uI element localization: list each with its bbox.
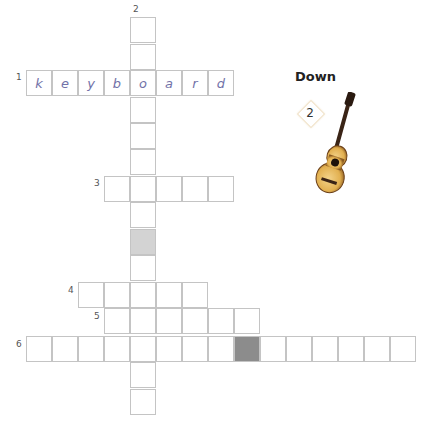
across-1-cell[interactable]: k <box>26 70 52 96</box>
across-3-cell[interactable] <box>104 176 130 202</box>
guitar-icon <box>312 92 362 202</box>
across-6-cell[interactable] <box>260 336 286 362</box>
down-2-cell[interactable] <box>130 308 156 334</box>
across-6-cell[interactable] <box>208 336 234 362</box>
down-2-cell[interactable] <box>130 123 156 149</box>
across-6-cell[interactable] <box>104 336 130 362</box>
across-6-cell[interactable] <box>26 336 52 362</box>
shaded-cell <box>130 229 156 255</box>
across-5-cell[interactable] <box>234 308 260 334</box>
down-2-cell[interactable] <box>130 389 156 415</box>
across-6-cell[interactable] <box>312 336 338 362</box>
across-5-cell[interactable] <box>208 308 234 334</box>
across-5-cell[interactable] <box>182 308 208 334</box>
clue-number-4: 4 <box>68 285 74 295</box>
clue-number-5: 5 <box>94 311 100 321</box>
across-1-cell[interactable]: e <box>52 70 78 96</box>
shaded-cell <box>234 336 260 362</box>
across-6-cell[interactable] <box>338 336 364 362</box>
down-clues-heading: Down <box>295 69 336 84</box>
clue-number-1: 1 <box>16 72 22 82</box>
across-4-cell[interactable] <box>156 282 182 308</box>
down-2-cell[interactable] <box>130 17 156 43</box>
across-6-cell[interactable] <box>364 336 390 362</box>
across-1-cell[interactable]: b <box>104 70 130 96</box>
across-6-cell[interactable] <box>52 336 78 362</box>
down-2-cell[interactable] <box>130 336 156 362</box>
across-1-cell[interactable]: o <box>130 70 156 96</box>
across-6-cell[interactable] <box>182 336 208 362</box>
down-2-cell[interactable] <box>130 362 156 388</box>
clue-number-2: 2 <box>133 4 139 14</box>
across-6-cell[interactable] <box>286 336 312 362</box>
down-2-cell[interactable] <box>130 202 156 228</box>
across-5-cell[interactable] <box>104 308 130 334</box>
across-1-cell[interactable]: r <box>182 70 208 96</box>
across-4-cell[interactable] <box>78 282 104 308</box>
across-3-cell[interactable] <box>182 176 208 202</box>
across-1-cell[interactable]: y <box>78 70 104 96</box>
across-4-cell[interactable] <box>182 282 208 308</box>
across-6-cell[interactable] <box>390 336 416 362</box>
across-1-cell[interactable]: d <box>208 70 234 96</box>
down-2-cell[interactable] <box>130 149 156 175</box>
down-2-cell[interactable] <box>130 97 156 123</box>
across-3-cell[interactable] <box>156 176 182 202</box>
across-6-cell[interactable] <box>78 336 104 362</box>
clue-number-3: 3 <box>94 178 100 188</box>
clue-number-6: 6 <box>16 339 22 349</box>
across-6-cell[interactable] <box>156 336 182 362</box>
across-3-cell[interactable] <box>208 176 234 202</box>
down-2-cell[interactable] <box>130 255 156 281</box>
across-4-cell[interactable] <box>104 282 130 308</box>
down-2-cell[interactable] <box>130 44 156 70</box>
down-2-cell[interactable] <box>130 282 156 308</box>
across-5-cell[interactable] <box>156 308 182 334</box>
across-1-cell[interactable]: a <box>156 70 182 96</box>
down-2-cell[interactable] <box>130 176 156 202</box>
